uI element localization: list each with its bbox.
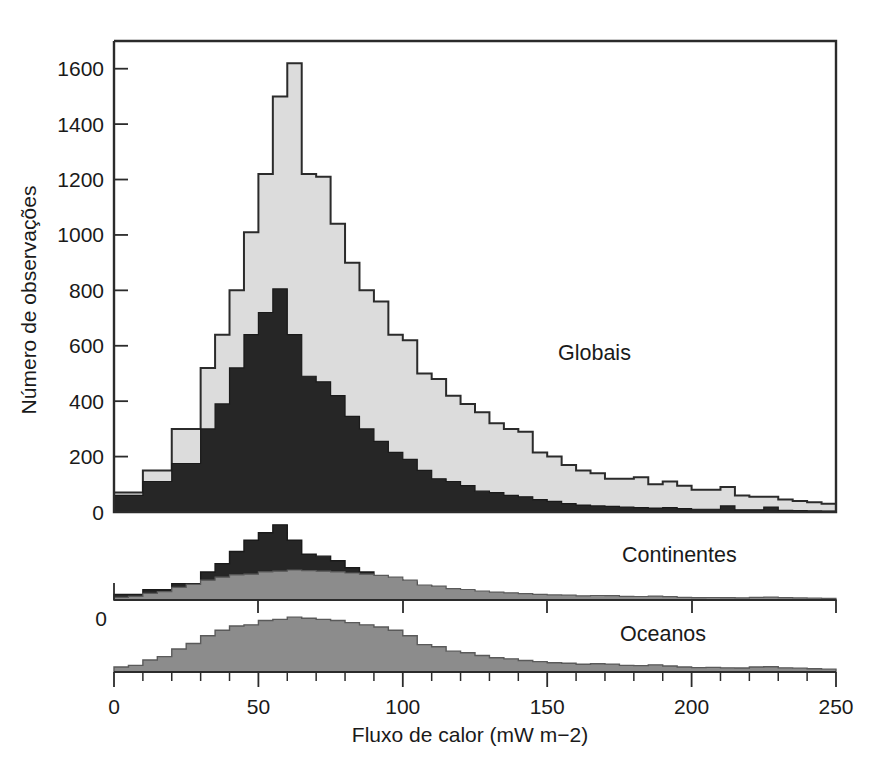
series-label-continentes: Continentes: [622, 543, 737, 567]
x-tick-label-250: 250: [818, 695, 853, 718]
series-label-oceanos: Oceanos: [620, 622, 706, 646]
y-tick-label-0: 0: [92, 501, 104, 524]
chart-canvas: Número de observações 020040060080010001…: [0, 0, 884, 770]
x-tick-label-100: 100: [385, 695, 420, 718]
y-tick-label-1000: 1000: [57, 223, 104, 246]
y-tick-label-800: 800: [69, 279, 104, 302]
x-axis-title: Fluxo de calor (mW m−2): [352, 723, 588, 746]
x-tick-label-0: 0: [108, 695, 120, 718]
y-tick-label-600: 600: [69, 334, 104, 357]
x-tick-label-50: 50: [247, 695, 270, 718]
y-tick-label-1400: 1400: [57, 113, 104, 136]
y-tick-label-200: 200: [69, 445, 104, 468]
continentes-zero-label: 0: [95, 607, 107, 630]
heat-flow-histogram-figure: Número de observações 020040060080010001…: [0, 0, 884, 770]
y-tick-label-400: 400: [69, 390, 104, 413]
y-tick-label-1200: 1200: [57, 168, 104, 191]
y-tick-label-1600: 1600: [57, 57, 104, 80]
series-label-globais: Globais: [558, 341, 631, 365]
x-tick-label-200: 200: [674, 695, 709, 718]
y-axis-title: Número de observações: [17, 186, 40, 415]
x-tick-label-150: 150: [530, 695, 565, 718]
